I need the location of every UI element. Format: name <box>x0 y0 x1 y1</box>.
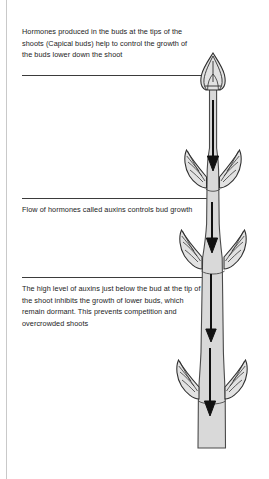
shoot-svg <box>168 52 269 464</box>
page-margin-rule <box>6 0 7 479</box>
apical-bud <box>201 53 225 90</box>
shoot-diagram <box>168 52 269 464</box>
diagram-page: Hormones produced in the buds at the tip… <box>0 0 269 479</box>
